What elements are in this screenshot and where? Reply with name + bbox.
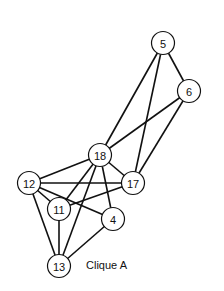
edge-12-4 xyxy=(29,183,113,219)
svg-text:4: 4 xyxy=(110,214,116,226)
clique-caption: Clique A xyxy=(86,259,127,271)
graph-nodes: 5618171211413 xyxy=(18,32,201,278)
node-6: 6 xyxy=(178,80,201,103)
edge-6-17 xyxy=(133,91,189,183)
node-4: 4 xyxy=(102,208,125,231)
node-17: 17 xyxy=(122,172,145,195)
node-12: 12 xyxy=(18,172,41,195)
svg-text:5: 5 xyxy=(160,38,166,50)
svg-text:11: 11 xyxy=(53,204,64,216)
edge-5-18 xyxy=(100,43,163,155)
svg-text:12: 12 xyxy=(23,178,35,190)
edge-6-18 xyxy=(100,91,189,155)
svg-text:13: 13 xyxy=(53,261,65,273)
svg-text:18: 18 xyxy=(94,150,106,162)
node-5: 5 xyxy=(152,32,175,55)
clique-graph: 5618171211413 xyxy=(0,0,224,291)
svg-text:6: 6 xyxy=(186,86,192,98)
svg-text:17: 17 xyxy=(127,178,139,190)
node-13: 13 xyxy=(48,255,71,278)
node-11: 11 xyxy=(48,198,71,221)
node-18: 18 xyxy=(89,144,112,167)
